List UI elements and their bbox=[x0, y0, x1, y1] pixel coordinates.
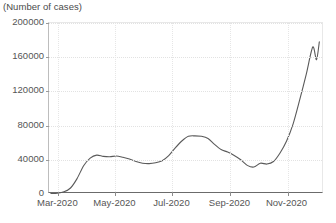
x-axis-tick-label: Sep-2020 bbox=[209, 197, 250, 208]
y-axis-tick-labels: 04000080000120000160000200000 bbox=[0, 0, 44, 223]
y-axis-tick-label: 160000 bbox=[0, 51, 44, 61]
x-axis-tick-labels: Mar-2020May-2020Jul-2020Sep-2020Nov-2020 bbox=[0, 197, 336, 213]
x-axis-tick-label: May-2020 bbox=[93, 197, 135, 208]
y-axis-tick-mark bbox=[46, 126, 49, 127]
x-axis-tick-mark bbox=[230, 192, 231, 196]
x-axis-tick-mark bbox=[115, 192, 116, 196]
y-axis-tick-mark bbox=[46, 57, 49, 58]
vertical-gridline bbox=[230, 23, 231, 192]
vertical-gridline bbox=[288, 23, 289, 192]
y-axis-tick-mark bbox=[46, 160, 49, 161]
y-axis-tick-mark bbox=[46, 23, 49, 24]
y-axis-tick-label: 80000 bbox=[0, 120, 44, 130]
y-axis-tick-label: 120000 bbox=[0, 85, 44, 95]
plot-area bbox=[48, 22, 323, 193]
x-axis-tick-mark bbox=[172, 192, 173, 196]
horizontal-gridline bbox=[49, 91, 322, 92]
x-axis-tick-label: Jul-2020 bbox=[153, 197, 189, 208]
x-axis-tick-label: Mar-2020 bbox=[37, 197, 78, 208]
vertical-gridline bbox=[58, 23, 59, 192]
y-axis-tick-label: 40000 bbox=[0, 154, 44, 164]
vertical-gridline bbox=[172, 23, 173, 192]
horizontal-gridline bbox=[49, 126, 322, 127]
series-line-path bbox=[51, 42, 319, 194]
y-axis-tick-mark bbox=[46, 91, 49, 92]
x-axis-tick-label: Nov-2020 bbox=[266, 197, 307, 208]
line-chart: (Number of cases) 0400008000012000016000… bbox=[0, 0, 336, 223]
horizontal-gridline bbox=[49, 23, 322, 24]
x-axis-tick-mark bbox=[288, 192, 289, 196]
y-axis-tick-label: 200000 bbox=[0, 17, 44, 27]
x-axis-tick-mark bbox=[58, 192, 59, 196]
series-number-of-cases bbox=[49, 23, 324, 194]
horizontal-gridline bbox=[49, 57, 322, 58]
horizontal-gridline bbox=[49, 160, 322, 161]
vertical-gridline bbox=[115, 23, 116, 192]
